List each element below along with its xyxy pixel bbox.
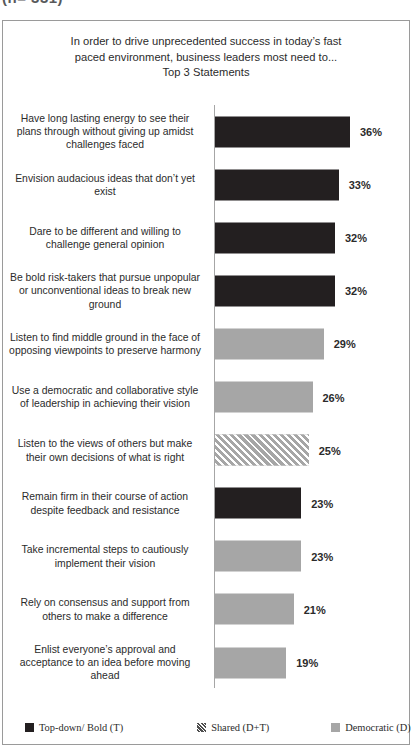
bar[interactable] (215, 222, 335, 253)
legend-swatch-shared-icon (197, 723, 206, 732)
bar-category-label: Remain firm in their course of action de… (7, 490, 203, 517)
bar-row: Have long lasting energy to see their pl… (3, 105, 409, 158)
chart-legend: Top-down/ Bold (T) Shared (D+T) Democrat… (3, 716, 409, 738)
bar-row: Listen to find middle ground in the face… (3, 317, 409, 370)
bar-row: Envision audacious ideas that don’t yet … (3, 158, 409, 211)
bar-category-label: Dare to be different and willing to chal… (7, 224, 203, 251)
bar-category-label: Listen to the views of others but make t… (7, 437, 203, 464)
bar-value-label: 23% (311, 550, 333, 562)
bar[interactable] (215, 647, 286, 678)
bar[interactable] (215, 328, 324, 359)
bar-category-label: Use a democratic and collaborative style… (7, 384, 203, 411)
bar-row: Be bold risk-takers that pursue unpopula… (3, 264, 409, 317)
bar[interactable] (215, 541, 301, 572)
chart-title-line-1: In order to drive unprecedented success … (31, 34, 381, 50)
bar-category-label: Listen to find middle ground in the face… (7, 331, 203, 358)
bar-value-label: 26% (323, 391, 345, 403)
bar-row: Use a democratic and collaborative style… (3, 371, 409, 424)
legend-swatch-democratic-icon (331, 723, 340, 732)
chart-title-line-2: paced environment, business leaders most… (31, 50, 381, 66)
chart-title: In order to drive unprecedented success … (3, 21, 409, 81)
bar-and-value: 23% (215, 488, 333, 519)
legend-swatch-topdown-icon (25, 723, 34, 732)
chart-title-line-3: Top 3 Statements (31, 65, 381, 81)
bar-category-label: Have long lasting energy to see their pl… (7, 111, 203, 151)
bar[interactable] (215, 275, 335, 306)
bar-value-label: 19% (296, 657, 318, 669)
bar-and-value: 23% (215, 541, 333, 572)
legend-item-topdown: Top-down/ Bold (T) (25, 722, 123, 733)
bar[interactable] (215, 488, 301, 519)
legend-label-topdown: Top-down/ Bold (T) (39, 722, 123, 733)
bar-row: Rely on consensus and support from other… (3, 583, 409, 636)
bar-and-value: 32% (215, 275, 367, 306)
bar-and-value: 32% (215, 222, 367, 253)
chart-container: In order to drive unprecedented success … (2, 20, 410, 745)
bar-value-label: 29% (334, 338, 356, 350)
legend-item-democratic: Democratic (D) (331, 722, 410, 733)
bar-row: Remain firm in their course of action de… (3, 477, 409, 530)
bar-category-label: Be bold risk-takers that pursue unpopula… (7, 271, 203, 311)
bar-value-label: 32% (345, 232, 367, 244)
legend-label-shared: Shared (D+T) (211, 722, 269, 733)
bar-and-value: 33% (215, 169, 371, 200)
bar-value-label: 23% (311, 497, 333, 509)
bar-value-label: 33% (349, 179, 371, 191)
bar-and-value: 21% (215, 594, 326, 625)
bar-row: Listen to the views of others but make t… (3, 424, 409, 477)
bar-and-value: 25% (215, 435, 341, 466)
bar-value-label: 21% (304, 603, 326, 615)
bar[interactable] (215, 435, 309, 466)
cropped-header-text: (n= 331) (0, 0, 414, 11)
cropped-header-label: (n= 331) (2, 0, 63, 6)
legend-item-shared: Shared (D+T) (197, 722, 269, 733)
bar-and-value: 26% (215, 382, 345, 413)
plot-area: Have long lasting energy to see their pl… (3, 105, 409, 691)
bar-and-value: 36% (215, 116, 382, 147)
bar-value-label: 32% (345, 285, 367, 297)
bar[interactable] (215, 116, 350, 147)
bar-and-value: 29% (215, 328, 356, 359)
bar-row: Take incremental steps to cautiously imp… (3, 530, 409, 583)
legend-label-democratic: Democratic (D) (345, 722, 410, 733)
bar-value-label: 25% (319, 444, 341, 456)
bar[interactable] (215, 594, 294, 625)
bar[interactable] (215, 169, 339, 200)
bar-category-label: Rely on consensus and support from other… (7, 596, 203, 623)
bar-category-label: Take incremental steps to cautiously imp… (7, 543, 203, 570)
bar-row: Enlist everyone’s approval and acceptanc… (3, 636, 409, 689)
bar-category-label: Enlist everyone’s approval and acceptanc… (7, 642, 203, 682)
bar-row: Dare to be different and willing to chal… (3, 211, 409, 264)
bar-category-label: Envision audacious ideas that don’t yet … (7, 171, 203, 198)
bar[interactable] (215, 382, 313, 413)
bar-value-label: 36% (360, 126, 382, 138)
bar-and-value: 19% (215, 647, 318, 678)
